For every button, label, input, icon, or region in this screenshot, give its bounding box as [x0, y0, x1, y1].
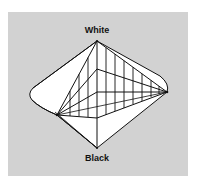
- white-vertex: [96, 40, 98, 42]
- right-vertex: [166, 91, 169, 94]
- black-label: Black: [85, 153, 109, 163]
- solid-outline: [30, 41, 168, 148]
- left-vertex: [56, 114, 59, 117]
- white-label: White: [85, 25, 110, 35]
- black-vertex: [96, 147, 98, 149]
